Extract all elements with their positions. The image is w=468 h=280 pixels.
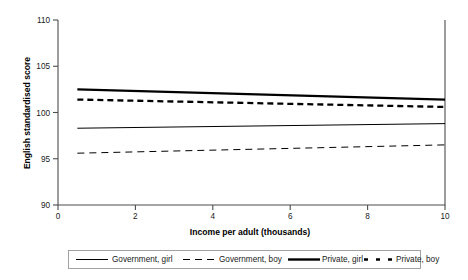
x-axis-ticks: 0 2 4 6 8 10: [56, 205, 450, 221]
legend-label-government-boy: Government, boy: [219, 255, 283, 264]
chart-svg: 110 105 100 95 90 0 2 4 6 8 10 Income pe…: [0, 0, 468, 280]
legend-label-private-girl: Private, girl: [322, 255, 363, 264]
chart-legend: Government, girl Government, boy Private…: [69, 251, 441, 269]
x-axis-title: Income per adult (thousands): [190, 227, 310, 237]
y-tick-label-95: 95: [41, 155, 51, 164]
x-tick-label-2: 2: [133, 212, 138, 221]
y-axis-ticks: 110 105 100 95 90: [36, 16, 58, 210]
axis-frame-path: [58, 20, 445, 205]
legend-label-government-girl: Government, girl: [112, 255, 173, 264]
x-tick-label-10: 10: [440, 212, 450, 221]
x-tick-label-8: 8: [365, 212, 370, 221]
x-tick-label-6: 6: [288, 212, 293, 221]
x-tick-label-0: 0: [56, 212, 61, 221]
series-line-private-boy: [77, 100, 445, 107]
y-axis-title: English standardised score: [22, 57, 32, 169]
chart-figure: 110 105 100 95 90 0 2 4 6 8 10 Income pe…: [0, 0, 468, 280]
legend-label-private-boy: Private, boy: [396, 255, 440, 264]
y-tick-label-110: 110: [37, 16, 50, 25]
y-tick-label-90: 90: [41, 201, 51, 210]
x-tick-label-4: 4: [211, 212, 216, 221]
series-line-government-girl: [77, 124, 445, 129]
series-group: [77, 89, 445, 153]
y-tick-label-105: 105: [36, 62, 50, 71]
series-line-private-girl: [77, 89, 445, 99]
y-tick-label-100: 100: [36, 109, 50, 118]
series-line-government-boy: [77, 145, 445, 153]
plot-frame: [58, 20, 445, 205]
